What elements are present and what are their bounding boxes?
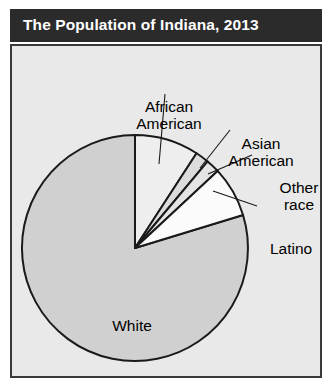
page-title: The Population of Indiana, 2013 xyxy=(23,16,259,34)
slice-label-white: White xyxy=(97,317,167,334)
chart-panel: African American Asian American Other ra… xyxy=(10,44,322,378)
slice-label-african-american: African American xyxy=(121,98,217,132)
slice-label-latino: Latino xyxy=(270,240,312,257)
slice-label-asian-american: Asian American xyxy=(209,135,313,169)
chart-title-bar: The Population of Indiana, 2013 xyxy=(10,9,322,42)
pie-chart-figure: The Population of Indiana, 2013 African … xyxy=(0,0,333,387)
slice-label-other-race: Other race xyxy=(260,179,322,213)
